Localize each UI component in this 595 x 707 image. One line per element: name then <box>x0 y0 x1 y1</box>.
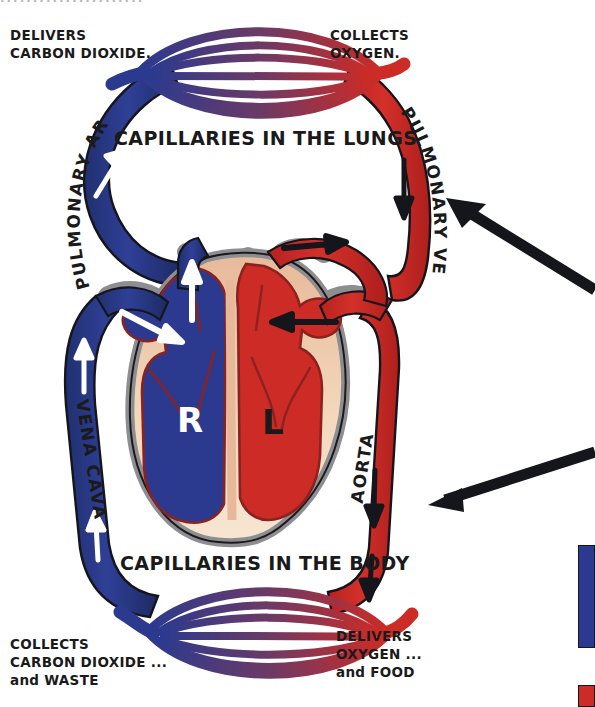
annotation-arrow-to-pulmonary-vein <box>446 198 595 290</box>
note-bottom-left-line2: CARBON DIOXIDE ... <box>10 655 167 671</box>
note-bottom-right-line1: DELIVERS <box>336 629 412 645</box>
note-bottom-left-line3: and WASTE <box>10 673 99 689</box>
chamber-label-left: L <box>262 402 284 442</box>
blue-swatch <box>578 545 595 648</box>
septum <box>230 280 232 520</box>
caption-capillaries-in-the-lungs: CAPILLARIES IN THE LUNGS <box>114 127 417 149</box>
note-top-right-line1: COLLECTS <box>330 28 409 44</box>
chamber-label-right: R <box>177 400 203 440</box>
note-top-left-line1: DELIVERS <box>10 28 86 44</box>
diagram-artwork: PULMONARY ARTERY PULMONARY VEIN VENA CAV… <box>0 0 595 707</box>
circulatory-system-diagram: ...................... <box>0 0 595 707</box>
note-bottom-right-line2: OXYGEN ... <box>336 647 422 663</box>
annotation-arrow-to-aorta <box>428 452 595 512</box>
note-top-right-line2: OXYGEN. <box>330 46 400 62</box>
note-bottom-left-line1: COLLECTS <box>10 637 89 653</box>
red-swatch <box>578 685 595 707</box>
note-bottom-right-line3: and FOOD <box>336 665 415 681</box>
caption-capillaries-in-the-body: CAPILLARIES IN THE BODY <box>120 552 410 574</box>
note-top-left-line2: CARBON DIOXIDE. <box>10 46 151 62</box>
